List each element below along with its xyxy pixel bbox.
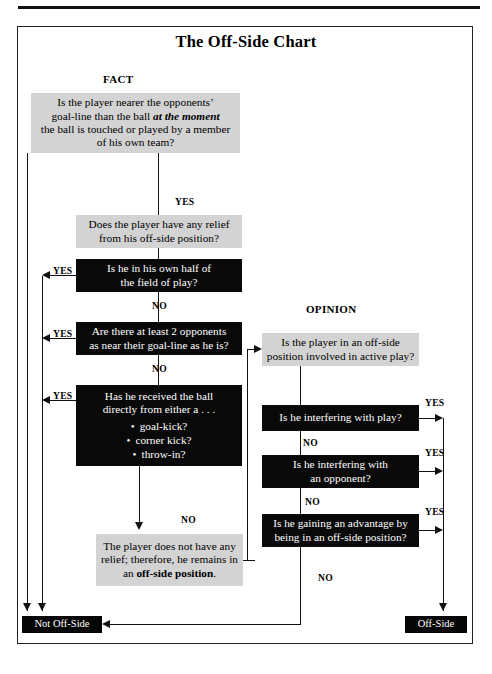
q5-line-2: position involved in active play?: [267, 350, 414, 362]
edge-q2-yes-arrow: [42, 271, 50, 279]
offside-flowchart: The Off-Side Chart FACT OPINION Is the p…: [0, 0, 492, 674]
edge-result-to-opinion-arrow: [254, 345, 262, 353]
result-box-no-relief: The player does not have any relief; the…: [96, 534, 243, 586]
q4-line-2: directly from either a . . .: [103, 403, 216, 415]
result-line-2: relief; therefore, he remains in: [101, 553, 238, 565]
label-yes-q7: YES: [425, 447, 444, 458]
q8-line-2: being in an off-side position?: [274, 531, 406, 543]
decision-box-interfering-play: Is he interfering with play?: [262, 405, 419, 431]
q8-line-1: Is he gaining an advantage by: [273, 517, 408, 529]
q0-line-3: the ball is touched or played by a membe…: [41, 123, 230, 135]
q0-line-2b-emphasis: at the moment: [153, 110, 220, 122]
decision-box-gaining-advantage: Is he gaining an advantage by being in a…: [262, 514, 419, 547]
edge-q4-yes-horizontal: [48, 400, 76, 401]
edge-yes-rail-arrow: [38, 603, 46, 611]
edge-result-to-opinion-vertical: [247, 349, 248, 561]
q2-line-1: Is he in his own half of: [107, 262, 211, 274]
q2-line-2: the field of play?: [121, 276, 198, 288]
result-line-3a: an: [123, 567, 137, 579]
edge-q5-q6: [300, 366, 301, 405]
label-yes-q6: YES: [425, 397, 444, 408]
edge-q7-no-vertical: [300, 488, 301, 514]
edge-q0-no-vertical: [27, 153, 28, 611]
q7-line-1: Is he interfering with: [293, 458, 388, 470]
edge-q8-no-arrow: [102, 620, 110, 628]
edge-q6-yes-arrow: [435, 414, 443, 422]
edge-q4-no-vertical: [139, 466, 140, 526]
edge-q8-no-horizontal: [110, 624, 301, 625]
q6-line-1: Is he interfering with play?: [279, 411, 401, 423]
q3-line-1: Are there at least 2 opponents: [92, 325, 227, 337]
edge-q8-no-vertical: [300, 547, 301, 625]
q0-line-4: of his own team?: [97, 136, 175, 148]
q0-line-2a: goal-line than the ball: [51, 110, 153, 122]
label-yes-q8: YES: [425, 506, 444, 517]
label-no-q6: NO: [303, 437, 318, 448]
edge-q3-yes-arrow: [42, 334, 50, 342]
q0-line-1: Is the player nearer the opponents’: [57, 96, 214, 108]
edge-q1-q2: [158, 248, 159, 259]
q4-bullet-2: throw-in?: [80, 447, 238, 461]
label-no-q8: NO: [318, 572, 333, 583]
result-line-1: The player does not have any: [103, 540, 236, 552]
terminal-offside: Off-Side: [405, 616, 467, 633]
q4-bullet-0: goal-kick?: [80, 419, 238, 433]
decision-box-own-half: Is he in his own half of the field of pl…: [76, 259, 242, 292]
q5-line-1: Is the player in an off-side: [281, 336, 400, 348]
decision-box-two-opponents: Are there at least 2 opponents as near t…: [76, 322, 242, 355]
edge-q4-yes-arrow: [42, 396, 50, 404]
decision-box-received-ball: Has he received the ball directly from e…: [76, 385, 242, 466]
q7-line-2: an opponent?: [310, 472, 371, 484]
edge-yes-right-rail-vertical: [443, 418, 444, 611]
q4-bullet-list: goal-kick? corner kick? throw-in?: [80, 419, 238, 461]
label-no-q2: NO: [152, 300, 167, 311]
q4-bullet-1: corner kick?: [80, 433, 238, 447]
q1-line-2: from his off-side position?: [99, 232, 219, 244]
terminal-offside-label: Off-Side: [405, 618, 467, 630]
result-line-3c: .: [213, 567, 216, 579]
q1-line-1: Does the player have any relief: [89, 218, 230, 230]
q3-line-2: as near their goal-line as he is?: [89, 339, 228, 351]
edge-q0-no-arrow: [23, 603, 31, 611]
heading-fact: FACT: [103, 73, 133, 85]
edge-q6-no-vertical: [300, 431, 301, 455]
terminal-not-offside-label: Not Off-Side: [22, 618, 102, 630]
edge-q0-yes-vertical: [158, 153, 159, 215]
top-rule: [18, 6, 480, 9]
edge-yes-right-rail-arrow: [439, 603, 447, 611]
result-line-3b-emphasis: off-side position: [136, 567, 213, 579]
edge-q4-no-arrow: [135, 522, 143, 530]
edge-q8-yes-arrow: [435, 526, 443, 534]
edge-q7-yes-arrow: [435, 467, 443, 475]
decision-box-nearer-goal-line: Is the player nearer the opponents’ goal…: [31, 93, 240, 153]
terminal-not-offside: Not Off-Side: [22, 616, 102, 633]
decision-box-active-play: Is the player in an off-side position in…: [262, 333, 419, 366]
edge-q2-no-vertical: [158, 292, 159, 322]
q4-line-1: Has he received the ball: [105, 390, 214, 402]
decision-box-interfering-opponent: Is he interfering with an opponent?: [262, 455, 419, 488]
label-no-q3: NO: [152, 363, 167, 374]
label-yes-q0: YES: [175, 196, 194, 207]
edge-q3-yes-horizontal: [48, 338, 76, 339]
decision-box-any-relief: Does the player have any relief from his…: [76, 215, 242, 248]
label-no-q4: NO: [181, 514, 196, 525]
heading-opinion: OPINION: [306, 303, 356, 315]
edge-q3-no-vertical: [158, 355, 159, 385]
edge-yes-rail-vertical: [42, 276, 43, 611]
page-title: The Off-Side Chart: [0, 32, 492, 52]
edge-q2-yes-horizontal: [48, 275, 76, 276]
label-no-q7: NO: [305, 496, 320, 507]
edge-result-to-opinion-horizontal-bottom: [243, 560, 255, 561]
